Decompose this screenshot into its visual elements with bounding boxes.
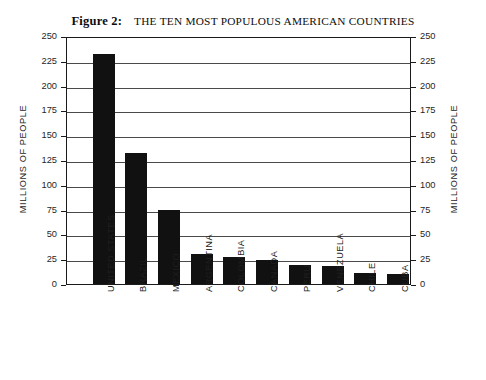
x-axis-category-label: ARGENTINA <box>205 234 214 292</box>
y-tick-right <box>411 211 416 212</box>
y-tick-label-left: 250 <box>25 32 57 41</box>
y-tick-label-right: 0 <box>420 280 425 289</box>
y-tick-right <box>411 111 416 112</box>
y-tick-right <box>411 87 416 88</box>
y-tick-label-right: 125 <box>420 156 436 165</box>
y-tick-right <box>411 285 416 286</box>
y-tick-label-right: 150 <box>420 131 436 140</box>
y-tick-label-right: 225 <box>420 57 436 66</box>
figure-number-label: Figure 2: <box>72 14 123 28</box>
y-tick-label-right: 250 <box>420 32 436 41</box>
y-tick-right <box>411 37 416 38</box>
y-tick-right <box>411 136 416 137</box>
chart-title-text: THE TEN MOST POPULOUS AMERICAN COUNTRIES <box>134 15 414 27</box>
y-tick-right <box>411 186 416 187</box>
y-tick-label-left: 125 <box>25 156 57 165</box>
y-tick-right <box>411 260 416 261</box>
y-tick-label-left: 150 <box>25 131 57 140</box>
y-tick-label-left: 50 <box>25 230 57 239</box>
y-tick-label-left: 225 <box>25 57 57 66</box>
y-tick-label-right: 50 <box>420 230 430 239</box>
y-tick-label-right: 75 <box>420 206 430 215</box>
x-axis-category-label: BRAZIL <box>139 257 148 292</box>
figure-bar-chart: Figure 2:THE TEN MOST POPULOUS AMERICAN … <box>0 0 486 380</box>
y-tick-right <box>411 235 416 236</box>
y-tick-label-left: 25 <box>25 255 57 264</box>
y-tick-right <box>411 62 416 63</box>
x-axis-category-label: PERU <box>303 264 312 292</box>
x-axis-category-label: VENEZUELA <box>336 233 345 292</box>
y-tick-label-left: 0 <box>25 280 57 289</box>
y-tick-left <box>61 285 66 286</box>
x-axis-category-label: CUBA <box>401 264 410 292</box>
x-axis-category-label: CANADA <box>270 251 279 292</box>
x-axis-category-label: CHILE <box>368 262 377 292</box>
y-tick-label-right: 175 <box>420 106 436 115</box>
y-tick-label-left: 75 <box>25 206 57 215</box>
y-tick-label-left: 200 <box>25 82 57 91</box>
y-axis-title-right: MILLIONS OF PEOPLE <box>449 99 459 219</box>
x-axis-category-label: UNITED STATES <box>107 214 116 292</box>
x-axis-category-label: COLOMBIA <box>237 240 246 293</box>
y-tick-label-right: 25 <box>420 255 430 264</box>
y-tick-right <box>411 161 416 162</box>
y-tick-label-left: 100 <box>25 181 57 190</box>
y-tick-label-right: 200 <box>420 82 436 91</box>
chart-title: Figure 2:THE TEN MOST POPULOUS AMERICAN … <box>0 11 486 29</box>
y-tick-label-right: 100 <box>420 181 436 190</box>
y-tick-label-left: 175 <box>25 106 57 115</box>
x-axis-category-label: MEXICO <box>172 253 181 292</box>
